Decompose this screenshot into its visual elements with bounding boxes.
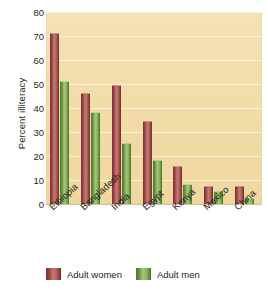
legend-swatch-icon xyxy=(46,268,61,280)
chart-legend: Adult womenAdult men xyxy=(46,264,262,284)
y-tick-label: 80 xyxy=(33,7,44,18)
x-axis-tick-labels: EthiopiaBangladeshIndiaEgyptKenyaMexicoC… xyxy=(46,204,262,252)
illiteracy-bar-chart: Percent illiteracy 80706050403020100 Eth… xyxy=(0,0,268,290)
y-tick-label: 40 xyxy=(33,103,44,114)
y-tick-label: 70 xyxy=(33,31,44,42)
y-tick-label: 20 xyxy=(33,151,44,162)
bar-groups xyxy=(46,12,262,204)
bar-group xyxy=(50,12,70,204)
y-tick-label: 10 xyxy=(33,175,44,186)
y-tick-label: 30 xyxy=(33,127,44,138)
bar-group xyxy=(235,12,255,204)
y-tick-label: 0 xyxy=(39,199,44,210)
bar xyxy=(50,33,59,204)
legend-entry: Adult men xyxy=(136,268,200,280)
y-axis-tick-labels: 80706050403020100 xyxy=(22,12,44,204)
y-tick-label: 50 xyxy=(33,79,44,90)
plot-area xyxy=(46,12,262,204)
bar xyxy=(81,93,90,204)
legend-entry: Adult women xyxy=(46,268,122,280)
legend-label: Adult women xyxy=(67,269,122,280)
y-tick-label: 60 xyxy=(33,55,44,66)
bar xyxy=(143,121,152,204)
bar-group xyxy=(143,12,163,204)
legend-label: Adult men xyxy=(157,269,200,280)
bar-group xyxy=(173,12,193,204)
bar-group xyxy=(204,12,224,204)
legend-swatch-icon xyxy=(136,268,151,280)
bar-group xyxy=(81,12,101,204)
